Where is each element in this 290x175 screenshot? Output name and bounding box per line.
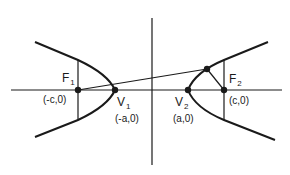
label-f2: F2 <box>229 73 242 85</box>
label-v1: V1 <box>117 96 130 108</box>
point-v2 <box>185 87 191 93</box>
coord-f2: (c,0) <box>229 96 249 106</box>
point-f1 <box>75 87 81 93</box>
point-p <box>204 66 210 72</box>
point-v1 <box>112 87 118 93</box>
focal-radius-f2 <box>207 69 224 90</box>
label-v2: V2 <box>175 96 188 108</box>
coord-v2: (a,0) <box>173 114 194 124</box>
coord-v1: (-a,0) <box>115 114 139 124</box>
hyperbola-diagram: F1 (-c,0) V1 (-a,0) V2 (a,0) F2 (c,0) <box>0 0 290 175</box>
label-v1-text: V <box>117 95 125 109</box>
point-f2 <box>221 87 227 93</box>
label-v2-sub: 2 <box>184 102 188 111</box>
label-v2-text: V <box>175 95 183 109</box>
label-f1: F1 <box>62 72 75 84</box>
label-f1-sub: 1 <box>70 78 74 87</box>
label-f2-text: F <box>229 72 236 86</box>
label-v1-sub: 1 <box>126 102 130 111</box>
label-f1-text: F <box>62 71 69 85</box>
coord-f1: (-c,0) <box>43 95 66 105</box>
hyperbola-right-branch <box>188 42 275 140</box>
label-f2-sub: 2 <box>237 79 241 88</box>
hyperbola-graphic <box>0 0 290 175</box>
